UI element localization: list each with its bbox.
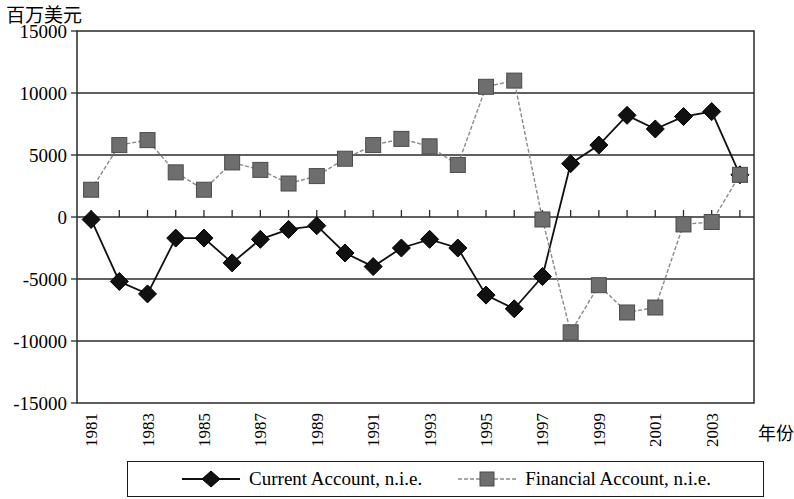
legend-item-current-account[interactable]: Current Account, n.i.e. [180,468,422,490]
data-point-financial-account[interactable] [450,157,465,172]
legend-diamond-icon [202,471,220,487]
legend-marker-square-icon [456,470,518,488]
data-point-financial-account[interactable] [309,169,324,184]
data-point-financial-account[interactable] [140,133,155,148]
data-point-financial-account[interactable] [196,182,211,197]
x-axis-tick-label: 1997 [533,413,552,448]
y-axis-tick-label: -10000 [13,331,67,352]
data-point-financial-account[interactable] [479,79,494,94]
x-axis-tick-label: 1989 [308,413,327,447]
chart-legend: Current Account, n.i.e.Financial Account… [127,461,764,497]
data-point-financial-account[interactable] [732,167,747,182]
legend-item-financial-account[interactable]: Financial Account, n.i.e. [456,468,711,490]
data-point-financial-account[interactable] [648,300,663,315]
y-axis-tick-label: 0 [58,207,68,228]
data-point-financial-account[interactable] [84,182,99,197]
x-axis-title: 年份 [758,419,794,445]
y-axis-tick-label: -15000 [13,393,67,414]
data-point-financial-account[interactable] [507,73,522,88]
data-point-financial-account[interactable] [591,278,606,293]
data-point-financial-account[interactable] [620,305,635,320]
legend-label: Financial Account, n.i.e. [525,468,711,490]
y-axis-tick-label: 10000 [20,83,68,104]
data-point-financial-account[interactable] [535,212,550,227]
x-axis-tick-label: 1985 [195,413,214,447]
data-point-financial-account[interactable] [394,131,409,146]
x-axis-tick-label: 1983 [139,413,158,447]
legend-label: Current Account, n.i.e. [249,468,422,490]
x-axis-tick-label: 1991 [364,413,383,447]
x-axis-tick-label: 1987 [251,413,270,448]
data-point-financial-account[interactable] [563,325,578,340]
x-axis-tick-label: 1993 [421,413,440,447]
data-point-financial-account[interactable] [366,138,381,153]
x-axis-tick-label: 1999 [590,413,609,447]
x-axis-tick-label: 1981 [82,413,101,447]
data-point-financial-account[interactable] [704,214,719,229]
data-point-financial-account[interactable] [422,139,437,154]
data-point-financial-account[interactable] [676,217,691,232]
data-point-financial-account[interactable] [168,165,183,180]
data-point-financial-account[interactable] [281,176,296,191]
data-point-financial-account[interactable] [253,162,268,177]
x-axis-tick-label: 2001 [646,413,665,447]
y-axis-tick-label: -5000 [23,269,67,290]
chart-plot: 150001000050000-5000-10000-1500019811983… [0,0,780,460]
legend-square-icon [480,472,494,486]
x-axis-tick-label: 2003 [703,413,722,447]
data-point-financial-account[interactable] [112,138,127,153]
legend-marker-diamond-icon [180,470,242,488]
x-axis-tick-label: 1995 [477,413,496,447]
data-point-financial-account[interactable] [225,155,240,170]
y-axis-tick-label: 15000 [20,21,68,42]
data-point-financial-account[interactable] [337,151,352,166]
y-axis-tick-label: 5000 [29,145,67,166]
